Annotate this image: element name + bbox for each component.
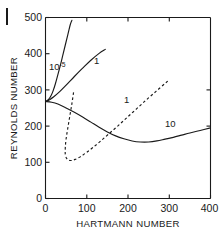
x-tick-label-0: 0 (43, 202, 49, 214)
curve-label-10e-5-exponent: -5 (60, 61, 66, 68)
y-tick-label-300: 300 (24, 84, 42, 96)
curve-annotations: 10-5 1 1 10 (49, 55, 176, 129)
plot-axes (46, 18, 211, 199)
curve-1-dashed (65, 80, 169, 161)
curve-10 (46, 101, 211, 142)
curve-label-1-dashed: 1 (124, 94, 129, 105)
y-tick-label-100: 100 (24, 156, 42, 168)
reynolds-hartmann-chart: 500 400 300 200 100 0 0 100 200 (0, 0, 224, 235)
y-tick-label-500: 500 (24, 11, 42, 23)
curve-label-10e-5-base: 10 (49, 61, 60, 72)
y-tick-label-0: 0 (36, 192, 42, 204)
curve-label-1-solid: 1 (94, 55, 99, 66)
x-axis-top-ticks (87, 18, 170, 22)
figure-container: 500 400 300 200 100 0 0 100 200 (0, 0, 224, 235)
x-tick-label-100: 100 (78, 202, 96, 214)
y-axis-title: REYNOLDS NUMBER (8, 57, 19, 159)
y-axis-ticks (46, 18, 50, 199)
y-axis-tick-labels: 500 400 300 200 100 0 (24, 11, 42, 204)
curve-label-10: 10 (165, 118, 176, 129)
x-tick-label-300: 300 (161, 202, 179, 214)
x-axis-tick-labels: 0 100 200 300 400 (43, 202, 219, 214)
data-curves (46, 20, 211, 160)
x-tick-label-200: 200 (119, 202, 137, 214)
x-axis-ticks (46, 195, 211, 199)
right-spine-ticks (207, 90, 211, 126)
curve-label-10e-5: 10-5 (49, 61, 66, 72)
y-tick-label-200: 200 (24, 120, 42, 132)
x-tick-label-400: 400 (201, 202, 219, 214)
y-tick-label-400: 400 (24, 47, 42, 59)
x-axis-title: HARTMANN NUMBER (76, 218, 180, 229)
